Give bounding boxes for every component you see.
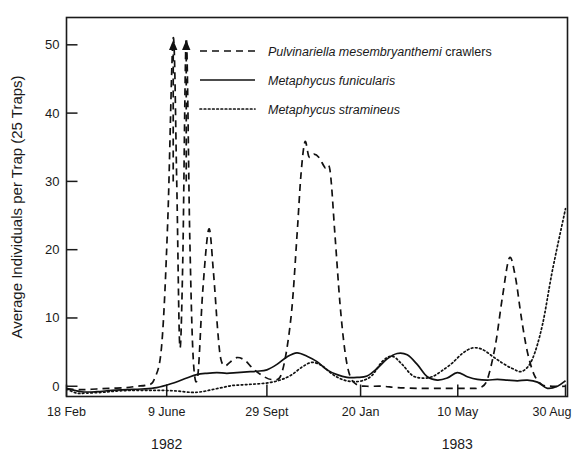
x-tick-label-0: 18 Feb (47, 405, 86, 419)
legend-species-name-1: Metaphycus funicularis (268, 74, 395, 88)
year-labels: 19821983 (151, 436, 473, 452)
y-axis: 01020304050 (45, 37, 77, 393)
y-tick-label-30: 30 (45, 174, 59, 189)
offscale-arrow-head-0 (169, 40, 177, 50)
legend-label-0: Pulvinariella mesembryanthemi crawlers (268, 45, 492, 59)
legend-label-2: Metaphycus stramineus (268, 103, 400, 117)
offscale-arrow-head-1 (182, 40, 190, 50)
y-tick-label-10: 10 (45, 310, 59, 325)
legend-species-name-2: Metaphycus stramineus (268, 103, 400, 117)
y-tick-label-50: 50 (45, 37, 59, 52)
y-axis-title: Average Individuals per Trap (25 Traps) (8, 75, 25, 338)
series-dashed (67, 38, 566, 390)
x-tick-label-4: 10 May (437, 405, 479, 419)
y-tick-label-20: 20 (45, 242, 59, 257)
y-tick-label-0: 0 (52, 379, 59, 394)
x-tick-label-1: 9 June (148, 405, 186, 419)
legend: Pulvinariella mesembryanthemi crawlersMe… (200, 45, 492, 117)
year-label-1982: 1982 (151, 436, 182, 452)
year-label-1983: 1983 (442, 436, 473, 452)
figure-container: 01020304050 18 Feb9 June29 Sept20 Jan10 … (0, 0, 582, 475)
y-tick-label-40: 40 (45, 106, 59, 121)
x-tick-label-5: 30 Aug (533, 405, 572, 419)
population-dynamics-chart: 01020304050 18 Feb9 June29 Sept20 Jan10 … (0, 0, 582, 475)
data-series (67, 38, 566, 394)
legend-species-name-0: Pulvinariella mesembryanthemi (268, 45, 443, 59)
legend-label-1: Metaphycus funicularis (268, 74, 395, 88)
x-tick-label-2: 29 Sept (245, 405, 289, 419)
x-tick-label-3: 20 Jan (342, 405, 380, 419)
legend-qualifier-0: crawlers (442, 45, 492, 59)
